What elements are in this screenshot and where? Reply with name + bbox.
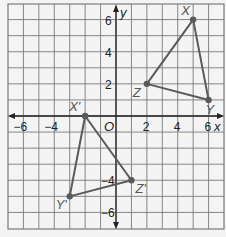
vertex-label: Z' xyxy=(134,181,146,196)
vertex-point xyxy=(128,177,134,183)
x-tick-label: 2 xyxy=(143,120,150,134)
x-axis-label: x xyxy=(213,119,221,134)
vertex-point xyxy=(190,16,196,22)
x-tick-label: −6 xyxy=(13,120,27,134)
vertex-point xyxy=(82,113,88,119)
vertex-point xyxy=(144,81,150,87)
vertex-label: X' xyxy=(68,99,81,114)
vertex-point xyxy=(67,193,73,199)
vertex-label: Y xyxy=(206,102,216,117)
y-tick-label: 2 xyxy=(105,78,112,92)
y-tick-label: −6 xyxy=(101,206,115,220)
y-tick-label: 4 xyxy=(105,46,112,60)
x-tick-label: −4 xyxy=(44,120,58,134)
vertex-label: Y' xyxy=(56,197,68,212)
coordinate-plane: −6−4246642−4−6 y x O XYZX'Y'Z' xyxy=(0,0,226,237)
origin-label: O xyxy=(104,119,114,134)
y-tick-label: 6 xyxy=(105,14,112,28)
vertex-label: X xyxy=(180,3,191,18)
x-tick-label: 4 xyxy=(174,120,181,134)
vertex-label: Z xyxy=(132,85,142,100)
x-tick-label: 6 xyxy=(205,120,212,134)
